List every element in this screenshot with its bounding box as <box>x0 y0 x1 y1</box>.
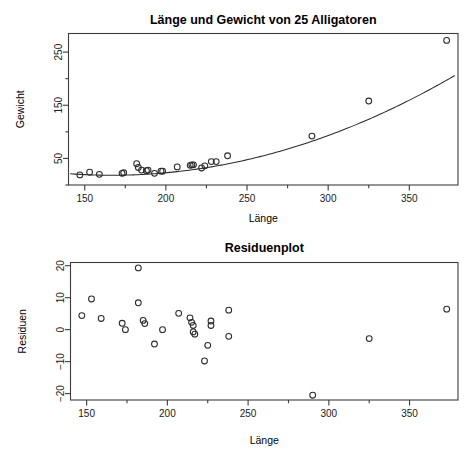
plot-frame <box>69 34 459 186</box>
x-axis-label-0: Länge <box>249 212 278 224</box>
y-tick-label-150: 150 <box>53 96 64 113</box>
panel-scatter-fit: Länge und Gewicht von 25 Alligatoren1502… <box>14 13 458 224</box>
data-point <box>123 327 129 333</box>
y-tick-label-50: 50 <box>53 152 64 164</box>
x-tick-label-250: 250 <box>239 193 256 204</box>
x-tick-label-300: 300 <box>320 408 337 419</box>
y-tick-label-20: 20 <box>55 260 66 272</box>
panel-residual-plot: Residuenplot15020025030035020100−10−20Lä… <box>16 241 458 446</box>
y-axis-label-0: Gewicht <box>14 90 26 128</box>
data-point <box>134 161 140 167</box>
data-point <box>160 327 166 333</box>
data-point <box>202 358 208 364</box>
data-point <box>152 341 158 347</box>
y-tick-label-10: 10 <box>55 292 66 304</box>
data-point <box>96 171 102 177</box>
x-axis-label-1: Länge <box>250 434 279 446</box>
data-point <box>366 336 372 342</box>
figure-canvas: Länge und Gewicht von 25 Alligatoren1502… <box>0 0 475 467</box>
y-tick-label--10: −10 <box>55 353 66 370</box>
data-point <box>89 296 95 302</box>
chart-title-0: Länge und Gewicht von 25 Alligatoren <box>150 13 377 27</box>
data-point <box>205 342 211 348</box>
x-tick-label-150: 150 <box>78 408 95 419</box>
x-tick-label-300: 300 <box>320 193 337 204</box>
data-point <box>176 310 182 316</box>
x-tick-label-250: 250 <box>240 408 257 419</box>
data-point <box>366 98 372 104</box>
data-point <box>226 333 232 339</box>
x-tick-label-350: 350 <box>401 193 418 204</box>
data-point <box>444 306 450 312</box>
data-point <box>135 265 141 271</box>
data-point <box>98 316 104 322</box>
data-point <box>119 320 125 326</box>
plot-svg: Länge und Gewicht von 25 Alligatoren1502… <box>0 0 475 467</box>
data-point <box>226 307 232 313</box>
x-tick-label-350: 350 <box>401 408 418 419</box>
data-point <box>444 38 450 44</box>
y-tick-label-250: 250 <box>53 43 64 60</box>
data-point <box>309 133 315 139</box>
data-point <box>135 300 141 306</box>
x-tick-label-200: 200 <box>159 408 176 419</box>
y-tick-label-0: 0 <box>55 326 66 332</box>
y-tick-label--20: −20 <box>55 385 66 402</box>
x-tick-label-150: 150 <box>76 193 93 204</box>
y-axis-label-1: Residuen <box>16 309 28 354</box>
plot-frame <box>71 263 459 401</box>
regression-curve <box>70 76 455 176</box>
data-point <box>225 153 231 159</box>
data-point <box>79 313 85 319</box>
data-point <box>174 164 180 170</box>
data-point <box>87 169 93 175</box>
x-tick-label-200: 200 <box>158 193 175 204</box>
chart-title-1: Residuenplot <box>225 241 305 255</box>
data-point <box>310 392 316 398</box>
